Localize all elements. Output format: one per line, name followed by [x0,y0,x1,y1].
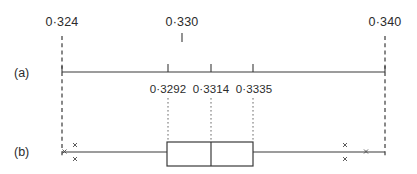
boxplot-figure: 0·324 0·330 0·340 (a) 0·3292 0·3314 0·33… [0,0,417,174]
quartile-label-q3: 0·3335 [236,83,272,95]
axis-label-mid: 0·330 [166,15,199,29]
outlier-mark [73,143,77,147]
row-label-a: (a) [14,66,29,80]
plot-canvas: 0·324 0·330 0·340 (a) 0·3292 0·3314 0·33… [0,0,417,174]
box-body [167,142,253,166]
outlier-mark [343,143,347,147]
outlier-mark [73,157,77,161]
outlier-mark [343,157,347,161]
row-label-b: (b) [14,145,29,159]
axis-label-min: 0·324 [46,15,79,29]
axis-label-max: 0·340 [369,15,402,29]
quartile-label-q1: 0·3292 [150,83,186,95]
quartile-label-median: 0·3314 [193,83,230,95]
